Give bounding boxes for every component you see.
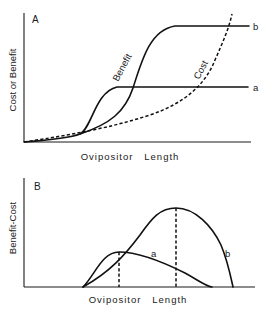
panel-a: A Cost or Benefit Ovipositor Length Bene… — [7, 13, 259, 162]
ovipositor-cost-benefit-diagram: A Cost or Benefit Ovipositor Length Bene… — [0, 0, 267, 315]
net-benefit-curve-a — [83, 252, 212, 287]
net-curve-a-label: a — [151, 248, 157, 259]
panel-b-letter: B — [34, 181, 41, 192]
benefit-label: Benefit — [110, 51, 134, 83]
panel-b: B Benefit-Cost Ovipositor Length a b — [7, 178, 255, 305]
panel-a-x-label: Ovipositor Length — [81, 151, 180, 162]
net-benefit-curve-b — [83, 208, 233, 287]
benefit-curve-a — [24, 87, 248, 142]
cost-label: Cost — [191, 58, 210, 81]
panel-b-x-label: Ovipositor Length — [89, 294, 188, 305]
panel-a-y-label: Cost or Benefit — [7, 48, 18, 111]
panel-a-letter: A — [32, 14, 39, 25]
panel-b-y-label: Benefit-Cost — [7, 202, 18, 255]
curve-b-label: b — [253, 21, 258, 32]
benefit-curve-b — [80, 26, 249, 134]
net-curve-b-label: b — [225, 248, 230, 259]
curve-a-label: a — [253, 82, 259, 93]
